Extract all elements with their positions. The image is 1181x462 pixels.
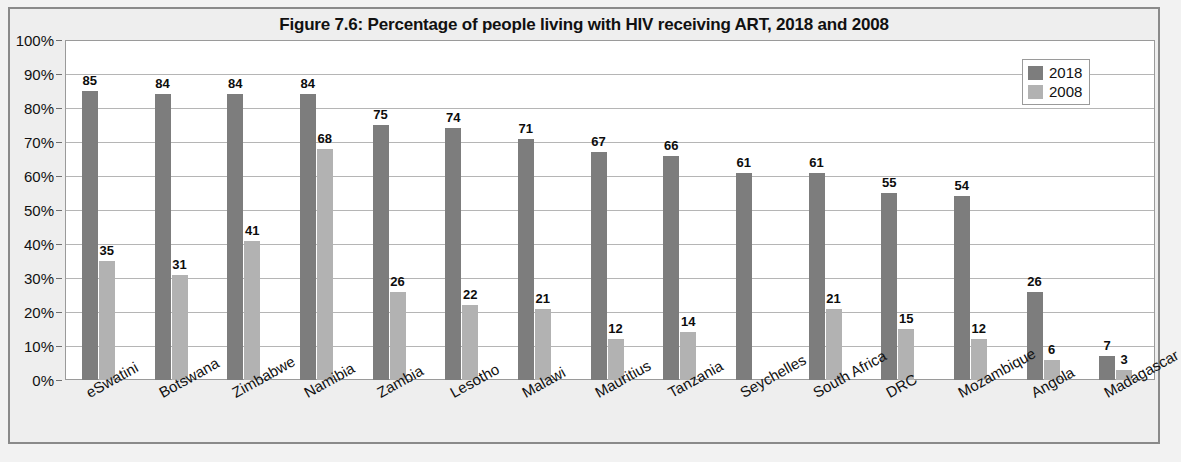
y-axis-tick-mark [56, 142, 62, 143]
y-axis-tick-label: 30% [24, 270, 54, 287]
y-axis-tick-mark [56, 108, 62, 109]
y-axis-tick-mark [56, 346, 62, 347]
legend-swatch-2008 [1028, 85, 1043, 99]
y-axis-tick-label: 50% [24, 202, 54, 219]
x-axis-category-labels: eSwatiniBotswanaZimbabweNamibiaZambiaLes… [65, 382, 1155, 446]
y-axis: 100%90%80%70%60%50%40%30%20%10%0% [10, 40, 62, 380]
y-axis-tick-label: 20% [24, 304, 54, 321]
gridline [66, 278, 1154, 279]
gridline [66, 346, 1154, 347]
gridline [66, 74, 1154, 75]
y-axis-tick-label: 60% [24, 168, 54, 185]
y-axis-tick-mark [56, 176, 62, 177]
y-axis-tick-mark [56, 312, 62, 313]
page-title: Figure 7.6: Percentage of people living … [10, 15, 1158, 35]
y-axis-tick-label: 80% [24, 100, 54, 117]
gridline [66, 108, 1154, 109]
legend-swatch-2018 [1028, 66, 1043, 80]
y-axis-tick-label: 90% [24, 66, 54, 83]
y-axis-tick-mark [56, 380, 62, 381]
plot-area [65, 40, 1155, 380]
y-axis-tick-mark [56, 278, 62, 279]
legend-item-2018: 2018 [1028, 63, 1082, 82]
y-axis-tick-mark [56, 74, 62, 75]
legend-label: 2018 [1049, 65, 1082, 80]
gridline [66, 210, 1154, 211]
y-axis-tick-label: 0% [32, 372, 54, 389]
legend-item-2008: 2008 [1028, 82, 1082, 101]
y-axis-tick-mark [56, 244, 62, 245]
chart-legend: 20182008 [1022, 59, 1090, 105]
legend-label: 2008 [1049, 84, 1082, 99]
gridline [66, 142, 1154, 143]
gridline [66, 244, 1154, 245]
y-axis-tick-mark [56, 210, 62, 211]
y-axis-tick-mark [56, 40, 62, 41]
y-axis-tick-label: 10% [24, 338, 54, 355]
gridline [66, 176, 1154, 177]
y-axis-tick-label: 100% [16, 32, 54, 49]
y-axis-tick-label: 40% [24, 236, 54, 253]
gridline [66, 312, 1154, 313]
y-axis-tick-label: 70% [24, 134, 54, 151]
figure-frame: Figure 7.6: Percentage of people living … [8, 7, 1160, 444]
